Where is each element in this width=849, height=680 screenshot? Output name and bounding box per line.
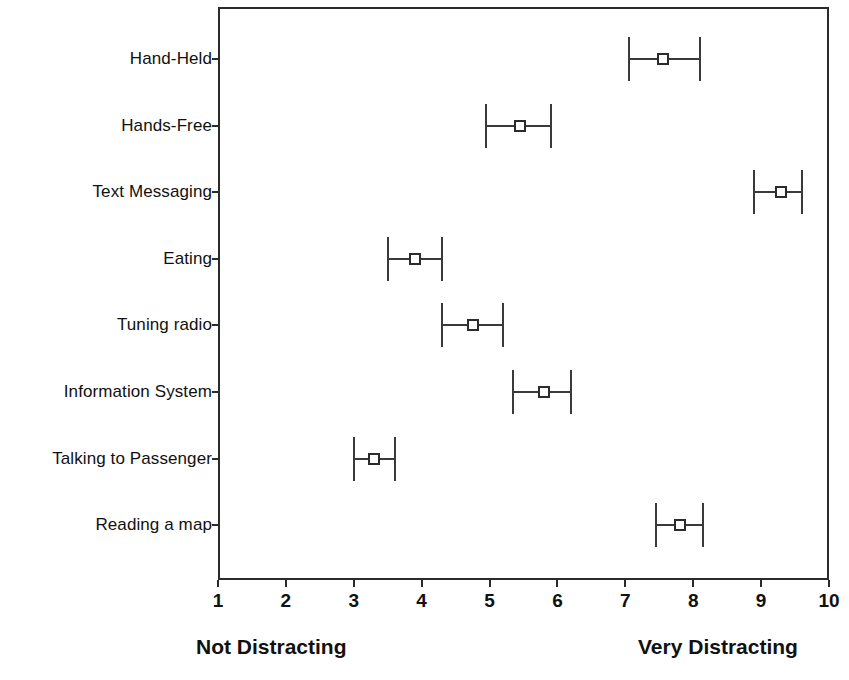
value-axis-tick <box>760 580 762 587</box>
value-axis-tick-label: 1 <box>213 590 224 612</box>
value-axis-tick <box>217 580 219 587</box>
category-tick <box>212 58 219 60</box>
value-axis-tick-label: 7 <box>620 590 631 612</box>
value-axis-tick-label: 4 <box>416 590 427 612</box>
category-label: Hands-Free <box>0 116 212 136</box>
value-axis-tick-label: 8 <box>688 590 699 612</box>
value-axis-tick <box>828 580 830 587</box>
value-axis-tick <box>624 580 626 587</box>
value-axis-tick-label: 6 <box>552 590 563 612</box>
category-axis-labels: Hand-HeldHands-FreeText MessagingEatingT… <box>0 0 212 680</box>
value-axis-tick-label: 2 <box>281 590 292 612</box>
category-label: Reading a map <box>0 515 212 535</box>
category-label: Hand-Held <box>0 49 212 69</box>
value-axis-tick <box>421 580 423 587</box>
scale-anchor-low: Not Distracting <box>196 635 347 659</box>
plot-area <box>218 7 829 580</box>
category-tick <box>212 458 219 460</box>
scale-anchor-high: Very Distracting <box>638 635 798 659</box>
value-axis-tick <box>556 580 558 587</box>
category-tick <box>212 191 219 193</box>
value-axis-tick-label: 5 <box>484 590 495 612</box>
category-tick <box>212 258 219 260</box>
value-axis-tick <box>692 580 694 587</box>
value-axis-tick <box>353 580 355 587</box>
category-tick <box>212 524 219 526</box>
distraction-ratings-chart: Hand-HeldHands-FreeText MessagingEatingT… <box>0 0 849 680</box>
category-tick <box>212 391 219 393</box>
category-label: Text Messaging <box>0 182 212 202</box>
category-tick <box>212 125 219 127</box>
category-label: Tuning radio <box>0 315 212 335</box>
value-axis-tick-label: 3 <box>348 590 359 612</box>
value-axis-tick-label: 9 <box>756 590 767 612</box>
category-label: Information System <box>0 382 212 402</box>
value-axis-tick <box>285 580 287 587</box>
category-tick <box>212 324 219 326</box>
value-axis-tick-label: 10 <box>818 590 839 612</box>
value-axis-tick <box>489 580 491 587</box>
category-label: Eating <box>0 249 212 269</box>
category-label: Talking to Passenger <box>0 449 212 469</box>
